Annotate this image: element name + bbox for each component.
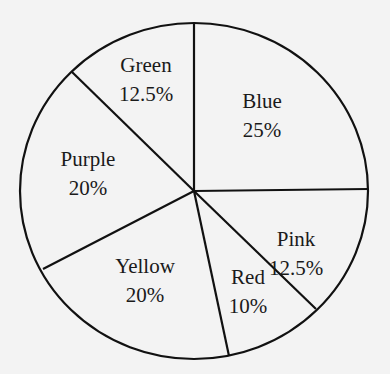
slice-label-red: Red 10%	[229, 267, 268, 317]
slice-label-blue: Blue 25%	[242, 91, 282, 141]
slice-label-purple: Purple 20%	[61, 149, 116, 199]
slice-label-pink: Pink 12.5%	[269, 229, 323, 279]
slice-name: Pink	[269, 229, 323, 250]
divider-red-yellow	[194, 191, 229, 356]
pie-chart-graphic	[0, 0, 390, 374]
slice-label-yellow: Yellow 20%	[115, 256, 175, 306]
slice-name: Red	[229, 267, 268, 288]
slice-percent: 12.5%	[269, 258, 323, 279]
slice-name: Blue	[242, 91, 282, 112]
slice-label-green: Green 12.5%	[119, 55, 173, 105]
slice-name: Yellow	[115, 256, 175, 277]
divider-blue-pink	[194, 189, 368, 191]
slice-percent: 20%	[115, 285, 175, 306]
slice-name: Purple	[61, 149, 116, 170]
slice-percent: 20%	[61, 178, 116, 199]
slice-percent: 25%	[242, 120, 282, 141]
pie-chart: Green 12.5% Blue 25% Purple 20% Pink 12.…	[0, 0, 390, 374]
slice-percent: 12.5%	[119, 84, 173, 105]
slice-name: Green	[119, 55, 173, 76]
slice-percent: 10%	[229, 296, 268, 317]
